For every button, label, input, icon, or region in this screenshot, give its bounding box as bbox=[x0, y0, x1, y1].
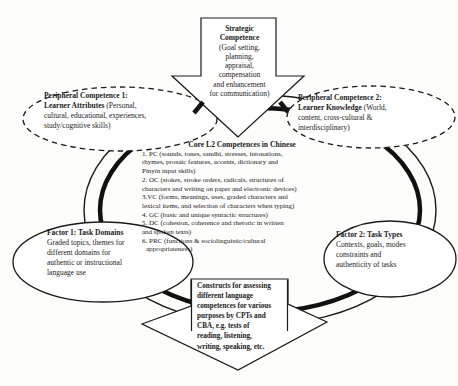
peripheral-1-line: study/cognitive skills) bbox=[44, 121, 204, 131]
constructs-line: different language bbox=[197, 291, 289, 301]
constructs-line: writing, speaking, etc. bbox=[197, 342, 289, 352]
strategic-title-line2: Competence bbox=[180, 33, 299, 42]
core-line: 1. PC (sounds, tones, sandhi, stresses, … bbox=[142, 150, 342, 159]
constructs-line: Constructs for assessing bbox=[197, 281, 289, 291]
factor-2-text: Factor 2: Task Types Contexts, goals, mo… bbox=[336, 230, 454, 270]
strategic-body-line: compensation bbox=[180, 70, 299, 79]
core-line: 3.VC (forms, meanings, uses, graded char… bbox=[142, 193, 342, 202]
strategic-title-line1: Strategic bbox=[180, 24, 299, 33]
factor-1-line: language use bbox=[47, 268, 179, 278]
strategic-body-line: appraisal, bbox=[180, 61, 299, 70]
factor-2-line: Contexts, goals, modes bbox=[336, 240, 454, 250]
peripheral-2-line: content, cross-cultural & bbox=[298, 113, 448, 123]
constructs-line: CBA, e.g. tests of bbox=[197, 321, 289, 331]
core-line: 4. GC (basic and unique syntactic struct… bbox=[142, 211, 342, 220]
factor-1-line: Graded topics, themes for bbox=[47, 238, 179, 248]
peripheral-1-title: Peripheral Competence 1: bbox=[44, 91, 204, 101]
factor-1-line: different domains for bbox=[47, 248, 179, 258]
strategic-competence-text: Strategic Competence (Goal setting, plan… bbox=[180, 24, 299, 98]
factor-2-line: authenticity of tasks bbox=[336, 260, 454, 270]
core-line: 2. OC (stokes, stroke orders, radicals, … bbox=[142, 176, 342, 185]
peripheral-competence-2-text: Peripheral Competence 2: Learner Knowled… bbox=[298, 93, 448, 133]
peripheral-1-lead: Learner Attributes (Personal, bbox=[44, 101, 204, 111]
factor-1-title: Factor 1: Task Domains bbox=[47, 228, 179, 238]
factor-1-line: authentic or instructional bbox=[47, 258, 179, 268]
factor-2-title: Factor 2: Task Types bbox=[336, 230, 454, 240]
factor-1-text: Factor 1: Task Domains Graded topics, th… bbox=[47, 228, 179, 278]
strategic-body-line: (Goal setting, bbox=[180, 43, 299, 52]
strategic-body-line: and enhancement bbox=[180, 80, 299, 89]
peripheral-1-line: cultural, educational, experiences, bbox=[44, 111, 204, 121]
constructs-line: purposes by CPTs and bbox=[197, 311, 289, 321]
constructs-line: reading, listening, bbox=[197, 331, 289, 341]
peripheral-competence-1-text: Peripheral Competence 1: Learner Attribu… bbox=[44, 91, 204, 131]
constructs-line: competences for various bbox=[197, 301, 289, 311]
core-line: rhymes, prosaic features, accents, dicti… bbox=[142, 158, 342, 167]
factor-2-line: constraints and bbox=[336, 250, 454, 260]
constructs-text: Constructs for assessing different langu… bbox=[197, 281, 289, 352]
peripheral-2-title: Peripheral Competence 2: bbox=[298, 93, 448, 103]
diagram-canvas: Strategic Competence (Goal setting, plan… bbox=[0, 0, 458, 386]
core-line: characters and writing on paper and elec… bbox=[142, 185, 342, 194]
core-title: Core L2 Competences in Chinese bbox=[142, 141, 342, 150]
peripheral-2-line: interdisciplinary) bbox=[298, 123, 448, 133]
core-line: lexical items, and selection of characte… bbox=[142, 202, 342, 211]
peripheral-2-lead: Learner Knowledge (World, bbox=[298, 103, 448, 113]
core-line: Pinyin input skills) bbox=[142, 167, 342, 176]
core-line: 5. DC (cohesion, coherence and rhetoric … bbox=[142, 219, 342, 228]
strategic-body-line: planning, bbox=[180, 52, 299, 61]
